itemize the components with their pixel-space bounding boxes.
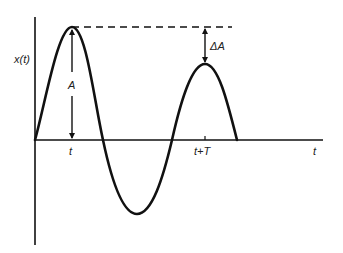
x-axis-label: t [313,145,317,157]
y-axis-label: x(t) [13,53,30,65]
waveform-curve [35,27,237,214]
waveform-diagram: x(t) A ΔA t t+T t [0,0,343,253]
delta-amplitude-label: ΔA [209,40,225,52]
amplitude-label: A [67,79,75,91]
first-peak-time-label: t [69,145,73,157]
second-peak-time-label: t+T [194,145,211,157]
